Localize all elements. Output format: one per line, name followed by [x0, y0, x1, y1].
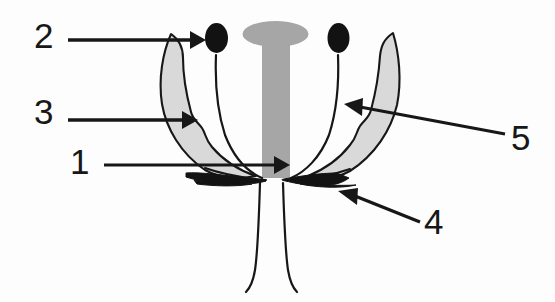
flower-diagram-figure: 1 2 3 4 5	[0, 0, 555, 302]
anther-left	[205, 23, 228, 53]
pistil-stigma-cap	[243, 21, 309, 47]
label-2: 2	[34, 18, 53, 53]
petal-left	[161, 34, 256, 178]
label-5: 5	[511, 120, 530, 155]
label-3: 3	[34, 94, 53, 129]
arrow-4	[338, 188, 420, 222]
anther-right	[328, 23, 350, 53]
arrow-2	[68, 31, 206, 49]
flower-stalk-group	[246, 183, 297, 292]
label-1: 1	[70, 144, 89, 179]
stamen-right-filament	[291, 55, 338, 178]
label-4: 4	[424, 204, 443, 239]
pistil-group	[243, 21, 309, 178]
stalk-line-left	[246, 183, 260, 292]
stalk-line-right	[283, 183, 297, 292]
